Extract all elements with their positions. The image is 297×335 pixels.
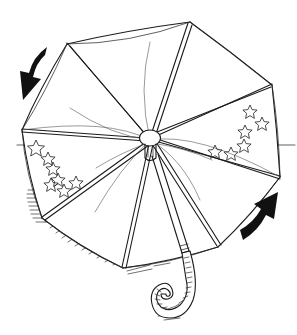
umbrella-illustration: Open umbrella line drawing with rotation… bbox=[0, 0, 297, 335]
illustration-canvas: Open umbrella line drawing with rotation… bbox=[0, 0, 297, 335]
